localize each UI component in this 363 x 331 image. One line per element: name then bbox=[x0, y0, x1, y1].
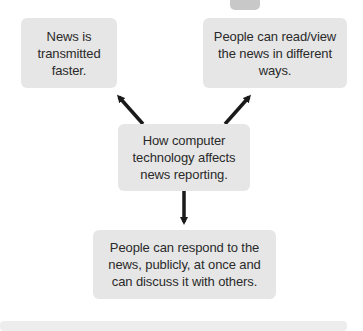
effect-box-ways: People can read/view the news in differe… bbox=[203, 18, 347, 88]
effect-box-respond: People can respond to the news, publicly… bbox=[93, 230, 276, 299]
center-box: How computer technology affects news rep… bbox=[118, 124, 250, 191]
center-text: How computer technology affects news rep… bbox=[124, 132, 244, 183]
effect-box-faster: News is transmitted faster. bbox=[21, 18, 117, 88]
bottom-strip-decoration bbox=[0, 321, 347, 331]
effect-text-faster: News is transmitted faster. bbox=[27, 28, 111, 79]
arrow-to-faster bbox=[119, 97, 143, 124]
arrow-to-ways bbox=[225, 97, 249, 124]
effect-text-ways: People can read/view the news in differe… bbox=[209, 28, 341, 79]
effect-text-respond: People can respond to the news, publicly… bbox=[103, 239, 266, 290]
